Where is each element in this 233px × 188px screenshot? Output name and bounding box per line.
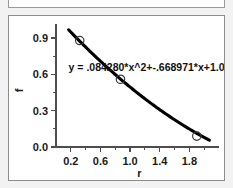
y-tick-label: 0.6 xyxy=(33,68,48,80)
fit-equation-label: y = .084280*x^2+-.668971*x+1.08 xyxy=(69,61,224,73)
y-tick-label: 0.3 xyxy=(33,105,48,117)
x-tick-label: 1.4 xyxy=(152,155,168,167)
x-axis-title: r xyxy=(137,167,142,179)
y-tick-label: 0.0 xyxy=(33,141,48,153)
x-tick-label: 0.6 xyxy=(93,155,108,167)
fit-curve-path xyxy=(69,30,210,140)
y-tick-label: 0.9 xyxy=(33,32,48,44)
figure-frame: 0.00.30.60.90.20.61.01.41.8rfy = .084280… xyxy=(8,15,225,181)
y-axis-title: f xyxy=(13,88,25,92)
chart-window: 0.00.30.60.90.20.61.01.41.8rfy = .084280… xyxy=(0,0,233,188)
toolbar-panel xyxy=(8,0,225,8)
x-tick-label: 1.8 xyxy=(182,155,197,167)
x-tick-label: 1.0 xyxy=(122,155,137,167)
scatter-plot: 0.00.30.60.90.20.61.01.41.8rfy = .084280… xyxy=(9,16,224,180)
x-tick-label: 0.2 xyxy=(63,155,78,167)
